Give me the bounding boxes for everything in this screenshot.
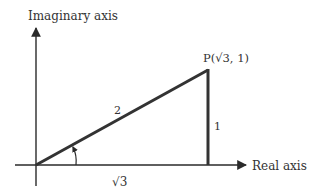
hypotenuse-line	[36, 70, 208, 165]
angle-arc-icon	[73, 147, 76, 165]
point-p-label: P(√3, 1)	[203, 51, 249, 65]
hypotenuse-length-label: 2	[114, 104, 121, 117]
base-length-label: √3	[112, 175, 127, 189]
imaginary-axis-label: Imaginary axis	[28, 9, 118, 23]
real-axis-label: Real axis	[252, 159, 307, 173]
complex-plane-diagram: Imaginary axis P(√3, 1) 2 1 √3 Real axis	[0, 0, 311, 191]
vertical-side-length-label: 1	[214, 120, 221, 133]
